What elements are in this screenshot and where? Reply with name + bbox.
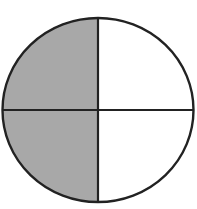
- fraction-diagram: [0, 0, 197, 209]
- quadrant-bottom-left: [3, 110, 99, 202]
- fraction-circle-svg: [0, 0, 197, 209]
- quadrant-bottom-right: [98, 110, 194, 202]
- quadrant-top-right: [98, 18, 194, 110]
- quadrant-top-left: [3, 18, 99, 110]
